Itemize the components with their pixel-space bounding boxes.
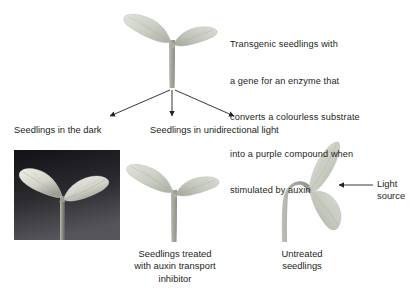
middle-seedling-illustration — [127, 164, 219, 242]
description-line-2: a gene for an enzyme that — [230, 75, 410, 87]
caption-untreated-seedlings: Untreated seedlings — [264, 248, 340, 273]
arrow-to-light — [175, 90, 234, 116]
dark-photograph-panel — [14, 150, 120, 240]
arrow-to-dark — [110, 90, 170, 116]
description-line-4: into a purple compound when — [230, 148, 410, 160]
description-line-1: Transgenic seedlings with — [230, 38, 410, 50]
label-seedlings-in-unidirectional-light: Seedlings in unidirectional light — [150, 124, 279, 136]
label-light-source: Light source — [377, 178, 413, 202]
description-line-3: converts a colourless substrate — [230, 111, 410, 123]
branch-arrows — [110, 90, 234, 116]
label-seedlings-in-the-dark: Seedlings in the dark — [14, 124, 102, 136]
figure-root: Transgenic seedlings with a gene for an … — [0, 0, 413, 294]
caption-seedlings-treated-with-auxin-transport-inhibitor: Seedlings treated with auxin transport i… — [127, 248, 223, 285]
top-seedling-illustration — [124, 14, 217, 88]
